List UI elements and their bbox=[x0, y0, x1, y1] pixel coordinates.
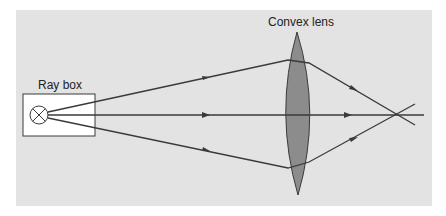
ray-box-label: Ray box bbox=[38, 78, 82, 92]
ray-diagram: Convex lens Ray box bbox=[0, 0, 446, 216]
convex-lens-label: Convex lens bbox=[268, 15, 334, 29]
bulb-icon bbox=[30, 106, 48, 124]
